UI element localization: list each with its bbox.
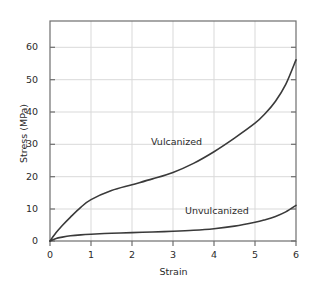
xtick-label-1: 1 (81, 250, 101, 260)
xtick-label-2: 2 (122, 250, 142, 260)
xtick-label-3: 3 (163, 250, 183, 260)
y-axis-title: Stress (MPa) (18, 89, 29, 179)
stress-strain-chart: 0 10 20 30 40 50 60 0 1 2 3 4 5 6 Stress… (0, 0, 319, 293)
xtick-label-5: 5 (245, 250, 265, 260)
ytick-label-50: 50 (16, 75, 38, 85)
curve-label-vulcanized: Vulcanized (151, 136, 202, 147)
ytick-label-0: 0 (16, 236, 38, 246)
ytick-label-60: 60 (16, 42, 38, 52)
x-axis-title: Strain (50, 266, 297, 277)
xtick-label-6: 6 (286, 250, 306, 260)
xtick-label-0: 0 (40, 250, 60, 260)
curve-label-unvulcanized: Unvulcanized (185, 205, 249, 216)
ytick-label-10: 10 (16, 204, 38, 214)
xtick-label-4: 4 (204, 250, 224, 260)
